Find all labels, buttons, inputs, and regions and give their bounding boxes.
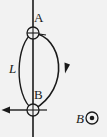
arrowhead-left-icon [2, 106, 11, 113]
physics-figure: A B L B [0, 0, 107, 137]
left-arc [19, 33, 33, 110]
crossed-circle-icon-top [27, 27, 39, 39]
label-magnetic-field-b: B [76, 112, 84, 125]
arrowhead-down-icon [65, 63, 71, 74]
label-point-b: B [34, 88, 43, 101]
crossed-circle-icon-bottom [27, 104, 39, 116]
label-point-a: A [34, 11, 43, 24]
label-length-l: L [9, 62, 16, 75]
dot-in-circle-icon [86, 112, 98, 124]
